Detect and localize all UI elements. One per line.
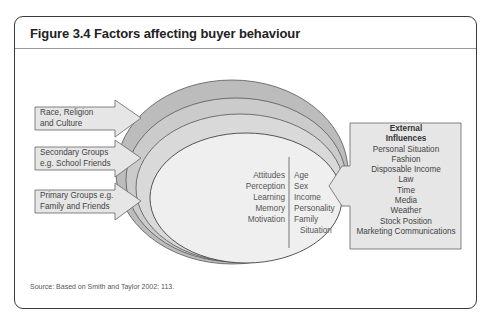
list-item: Attitudes (205, 170, 285, 181)
list-item: Learning (205, 192, 285, 203)
arrow-label-culture: Race, Religion and Culture (40, 108, 93, 129)
list-item: Income (294, 192, 335, 203)
list-item: Marketing Communications (352, 227, 460, 237)
arrow-label-line: Secondary Groups (40, 148, 111, 159)
arrow-label-line: Primary Groups e.g. (40, 191, 113, 202)
list-item: Personality (294, 203, 335, 214)
list-item: Weather (352, 206, 460, 216)
list-item: Time (352, 186, 460, 196)
psychological-factors-list: Attitudes Perception Learning Memory Mot… (205, 170, 285, 225)
arrow-label-line: and Culture (40, 119, 93, 130)
arrow-label-line: e.g. School Friends (40, 159, 111, 170)
list-item: Age (294, 170, 335, 181)
list-item: Stock Position (352, 217, 460, 227)
list-item: Sex (294, 181, 335, 192)
arrow-label-secondary: Secondary Groups e.g. School Friends (40, 148, 111, 169)
list-item: Motivation (205, 214, 285, 225)
arrow-label-line: Race, Religion (40, 108, 93, 119)
figure-source: Source: Based on Smith and Taylor 2002: … (30, 283, 174, 290)
list-item: Law (352, 175, 460, 185)
list-item: Situation (294, 225, 335, 236)
personal-factors-list: Age Sex Income Personality Family Situat… (294, 170, 335, 236)
list-item: Memory (205, 203, 285, 214)
list-item: Perception (205, 181, 285, 192)
list-item: Disposable Income (352, 165, 460, 175)
list-item: Family (294, 214, 335, 225)
external-heading: External (352, 124, 460, 134)
list-item: Fashion (352, 155, 460, 165)
arrow-label-line: Family and Friends (40, 202, 113, 213)
arrow-label-primary: Primary Groups e.g. Family and Friends (40, 191, 113, 212)
external-heading: Influences (352, 134, 460, 144)
external-influences-list: External Influences Personal Situation F… (352, 124, 460, 237)
list-item: Media (352, 196, 460, 206)
list-item: Personal Situation (352, 145, 460, 155)
